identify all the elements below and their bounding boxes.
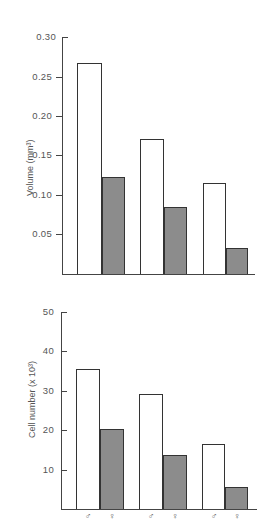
female-symbol-label: ♀ [168,511,182,521]
female-symbol-label: ♀ [105,511,119,521]
y-tick [61,430,67,431]
y-tick [61,312,67,313]
cell-number-chart: Cell number (x 10³) 50 40 30 20 10 ♂ ♀ ♂… [0,0,272,521]
y-tick-label: 10 [14,464,54,475]
bar-male-3 [202,444,225,509]
y-tick-label: 30 [14,385,54,396]
bar-female-3 [225,487,248,509]
cell-number-x-axis [61,509,257,510]
male-symbol-label: ♂ [144,511,158,521]
bar-male-1 [76,369,100,509]
male-symbol-label: ♂ [207,511,221,521]
y-tick-label: 40 [14,345,54,356]
bar-female-2 [163,455,187,509]
y-tick-label: 20 [14,424,54,435]
female-symbol-label: ♀ [230,511,244,521]
bar-male-2 [139,394,163,509]
cell-number-y-axis [61,312,62,509]
y-tick-label: 50 [14,306,54,317]
male-symbol-label: ♂ [81,511,95,521]
y-tick [61,391,67,392]
bar-female-1 [100,429,124,509]
y-tick [61,351,67,352]
y-tick [61,470,67,471]
